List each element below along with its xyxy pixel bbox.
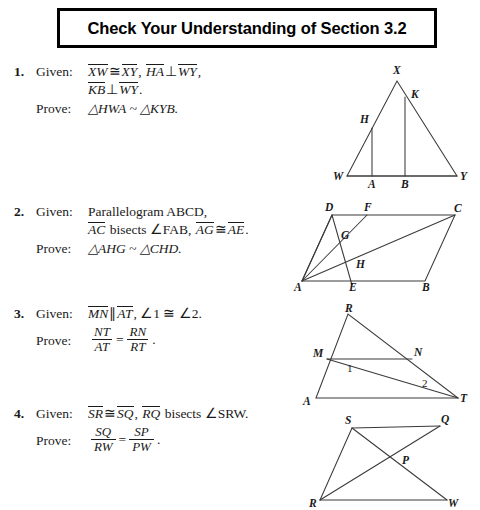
diagram-3-triangle-art: R M N 1 2 A T — [300, 302, 472, 406]
problem-2-prove-row: Prove: △AHG ~ △CHD. — [36, 240, 284, 258]
problem-1-given-line-1: XW≅XY, HA⊥WY, — [88, 63, 202, 81]
vertex-label-t: T — [460, 392, 468, 404]
parallel-symbol: ∥ — [108, 306, 117, 321]
vertex-label-d: D — [324, 201, 334, 213]
segment-ac: AC — [88, 222, 105, 238]
segment-kb: KB — [88, 82, 105, 98]
equals-sign-4: = — [119, 431, 127, 449]
fraction-denominator-rw: RW — [91, 439, 116, 455]
problem-2-given-line-2: AC bisects ∠FAB, AG≅AE. — [36, 221, 284, 239]
problem-1-given-row: Given: XW≅XY, HA⊥WY, — [36, 63, 274, 81]
comma-1: , — [137, 64, 142, 79]
prove-label-2: Prove: — [36, 240, 88, 258]
fraction-numerator-sp: SP — [131, 425, 151, 440]
given-label-4: Given: — [36, 405, 88, 423]
problem-3-text: 3. Given: MN∥AT, ∠1 ≅ ∠2. Prove: NTAT=RN… — [14, 305, 284, 356]
segment-de-line — [332, 215, 352, 285]
period-2: . — [244, 222, 249, 237]
vertex-label-a3: A — [302, 395, 311, 406]
segment-ad-line — [302, 215, 332, 281]
diagonal-sw — [352, 428, 447, 500]
parallelogram-statement: Parallelogram ABCD, — [88, 204, 207, 219]
angle-label-2: 2 — [422, 377, 428, 389]
period-4: . — [157, 431, 160, 449]
segment-xy: XY — [122, 64, 138, 80]
diagram-2-parallelogram-abcd: D F C G H A E B — [292, 200, 478, 292]
problem-3-prove-row: Prove: NTAT=RNRT. — [36, 326, 284, 356]
cong-symbol-4: ≅ — [103, 406, 117, 421]
vertex-label-a2: A — [293, 281, 302, 292]
vertex-label-b2: B — [421, 281, 430, 292]
segment-ae: AE — [228, 222, 245, 238]
problem-1-prove-statement: △HWA ~ △KYB. — [88, 100, 178, 118]
angle-label-1: 1 — [347, 362, 353, 374]
diagonal-ac — [302, 215, 455, 281]
fraction-sq-over-rw: SQRW — [91, 425, 116, 455]
problem-3-given-row: Given: MN∥AT, ∠1 ≅ ∠2. — [36, 305, 284, 323]
perp-symbol-1: ⊥ — [164, 64, 178, 79]
vertex-label-p: P — [402, 454, 410, 466]
vertex-label-s: S — [345, 414, 351, 426]
problem-2-prove-statement: △AHG ~ △CHD. — [88, 240, 182, 258]
problem-1-text: 1. Given: XW≅XY, HA⊥WY, KB⊥WY. Prove: △H… — [14, 63, 274, 117]
fraction-sp-over-pw: SPPW — [129, 425, 154, 455]
fraction-numerator-rn: RN — [127, 325, 150, 340]
segment-mn: MN — [88, 306, 108, 322]
given-label-1: Given: — [36, 63, 88, 81]
given-label-3: Given: — [36, 305, 88, 323]
equals-sign-3: = — [116, 331, 124, 349]
vertex-label-h2: H — [355, 258, 366, 270]
prove-label-4: Prove: — [36, 432, 88, 450]
problem-1-given-line-2: KB⊥WY. — [36, 81, 274, 99]
vertex-label-b: B — [400, 178, 409, 190]
problem-1-number: 1. — [14, 63, 24, 81]
vertex-label-k: K — [410, 88, 420, 100]
period-1: . — [138, 82, 143, 97]
segment-sr-line — [320, 428, 352, 500]
prove-label-1: Prove: — [36, 100, 88, 118]
vertex-label-f: F — [363, 201, 372, 213]
segment-wy-2: WY — [119, 82, 138, 98]
cong-symbol-1: ≅ — [108, 64, 122, 79]
fraction-numerator-nt: NT — [91, 325, 113, 340]
vertex-label-h: H — [359, 113, 370, 125]
perp-symbol-2: ⊥ — [105, 82, 119, 97]
triangle-art-outline — [316, 314, 458, 398]
vertex-label-c: C — [454, 202, 462, 214]
title-box: Check Your Understanding of Section 3.2 — [57, 8, 437, 48]
comma-4: , — [134, 406, 143, 421]
vertex-label-q: Q — [441, 413, 449, 425]
prove-label-3: Prove: — [36, 332, 88, 350]
fraction-denominator-rt: RT — [127, 339, 148, 355]
vertex-label-m: M — [312, 347, 324, 359]
segment-wy-1: WY — [178, 64, 197, 80]
fraction-nt-over-at: NTAT — [91, 325, 113, 355]
problem-4-prove-row: Prove: SQRW=SPPW. — [36, 426, 294, 456]
problem-2-text: 2. Given: Parallelogram ABCD, AC bisects… — [14, 203, 284, 257]
diagonal-rq — [320, 426, 440, 500]
worksheet-page: Check Your Understanding of Section 3.2 … — [0, 0, 480, 510]
page-title: Check Your Understanding of Section 3.2 — [87, 19, 406, 38]
vertex-label-w: W — [333, 170, 344, 182]
vertex-label-r: R — [344, 302, 353, 314]
triangle-wxy-outline — [347, 81, 457, 176]
vertex-label-a: A — [367, 178, 376, 190]
fraction-denominator-at: AT — [92, 339, 113, 355]
problem-4-prove-proportion: SQRW=SPPW. — [88, 426, 160, 456]
comma-2: , — [197, 64, 202, 79]
vertex-label-e: E — [348, 281, 357, 292]
fraction-denominator-pw: PW — [129, 439, 154, 455]
segment-sq: SQ — [117, 406, 134, 422]
problem-4-number: 4. — [14, 405, 24, 423]
problem-3-given-line-1: MN∥AT, ∠1 ≅ ∠2. — [88, 305, 203, 323]
problem-4-given-line-1: SR≅SQ, RQ bisects ∠SRW. — [88, 405, 249, 423]
segment-xw: XW — [88, 64, 108, 80]
segment-sr: SR — [88, 406, 103, 422]
diagram-4-quadrilateral-sqwr: S Q P R W — [305, 412, 465, 510]
given-label-2: Given: — [36, 203, 88, 221]
problem-3-prove-proportion: NTAT=RNRT. — [88, 326, 156, 356]
fraction-rn-over-rt: RNRT — [127, 325, 150, 355]
vertex-label-w: W — [448, 497, 459, 509]
problem-2-given-row: Given: Parallelogram ABCD, — [36, 203, 284, 221]
problem-3-number: 3. — [14, 305, 24, 323]
